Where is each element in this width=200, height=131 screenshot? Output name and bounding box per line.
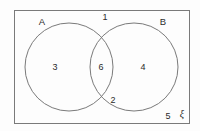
region-label-left-only: 3: [52, 63, 57, 72]
region-label-outside: 5: [165, 112, 170, 121]
region-label-top-edge: 1: [102, 13, 107, 22]
universal-set-symbol: ξ: [180, 109, 184, 119]
venn-diagram-figure: A B 1 3 6 4 2 5 ξ: [0, 0, 200, 131]
region-label-right-only: 4: [140, 63, 145, 72]
set-b-label: B: [160, 17, 167, 27]
set-a-label: A: [39, 17, 46, 27]
region-label-intersection: 6: [98, 63, 103, 72]
region-label-bottom-edge: 2: [110, 96, 115, 105]
